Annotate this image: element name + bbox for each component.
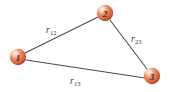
edge-1-2: [25, 17, 98, 53]
node-3-label: 3: [149, 72, 155, 82]
diagram-canvas: 1 2 3: [0, 0, 170, 92]
edge-label-r13: r13: [70, 71, 81, 88]
edge-group: [25, 17, 147, 78]
edge-label-r23: r23: [131, 29, 142, 46]
node-2-label: 2: [102, 9, 108, 19]
node-3: 3: [144, 68, 160, 84]
triangle-diagram-figure: 1 2 3 r12 r23 r13: [0, 0, 170, 92]
edge-label-r13-subscript: 13: [74, 80, 81, 87]
node-1: 1: [10, 49, 26, 65]
edge-1-3: [26, 60, 145, 78]
edge-label-r12-subscript: 12: [50, 29, 57, 36]
edge-label-r12: r12: [46, 20, 57, 37]
node-1-label: 1: [16, 53, 21, 63]
edge-label-r23-subscript: 23: [135, 38, 142, 45]
node-2: 2: [97, 5, 113, 21]
